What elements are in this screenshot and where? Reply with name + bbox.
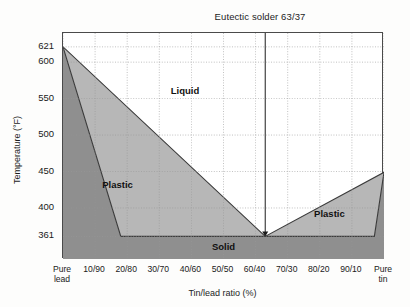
y-tick-label: 361 xyxy=(8,230,54,240)
x-tick-label: 60/40 xyxy=(233,264,277,274)
x-tick-label: 90/10 xyxy=(329,264,373,274)
x-tick-label: 10/90 xyxy=(72,264,116,274)
x-tick-label: 40/60 xyxy=(168,264,212,274)
x-tick-label: 70/30 xyxy=(265,264,309,274)
y-axis-title: Temperature (°F) xyxy=(12,80,22,220)
x-tick-label: Pure lead xyxy=(40,264,84,284)
y-tick-label: 600 xyxy=(8,56,54,66)
x-tick-label: 20/80 xyxy=(104,264,148,274)
y-tick-label: 621 xyxy=(8,41,54,51)
x-tick-label: 30/70 xyxy=(136,264,180,274)
region-label-solid: Solid xyxy=(212,241,235,252)
region-label-liquid: Liquid xyxy=(171,85,200,96)
region-label-plastic-left: Plastic xyxy=(102,179,133,190)
chart-title: Eutectic solder 63/37 xyxy=(0,11,410,22)
phase-diagram-svg xyxy=(63,33,384,259)
phase-diagram-figure: Eutectic solder 63/37 Temperature (°F) T… xyxy=(0,0,410,307)
region-label-plastic-right: Plastic xyxy=(314,208,345,219)
x-axis-title: Tin/lead ratio (%) xyxy=(62,288,383,298)
plot-area: Liquid Plastic Plastic Solid xyxy=(62,32,383,258)
x-tick-label: 80/20 xyxy=(297,264,341,274)
x-tick-label: 50/50 xyxy=(201,264,245,274)
eutectic-marker xyxy=(262,33,268,236)
chart-title-text: Eutectic solder 63/37 xyxy=(215,11,306,22)
x-tick-label: Pure tin xyxy=(361,264,405,284)
